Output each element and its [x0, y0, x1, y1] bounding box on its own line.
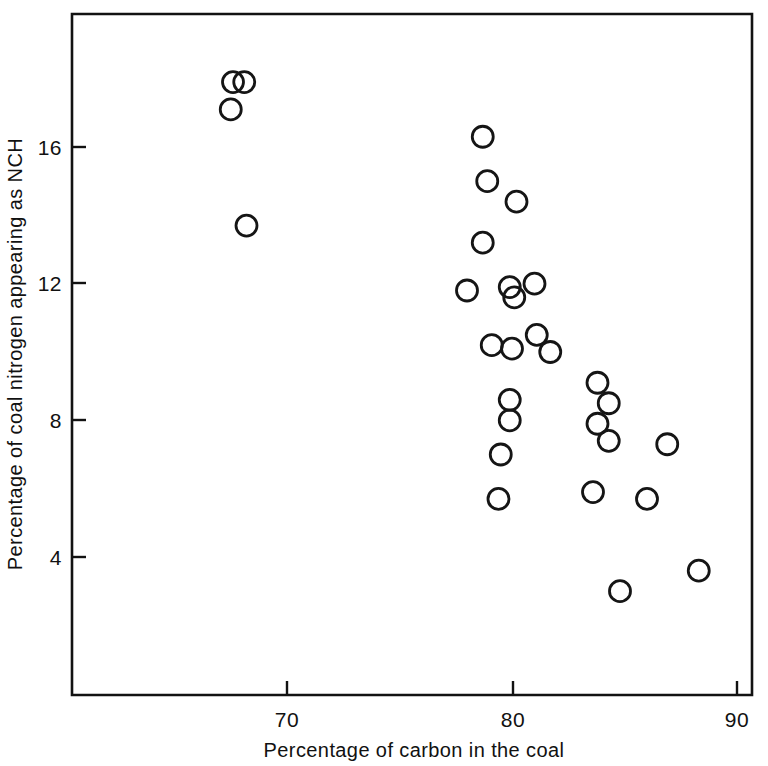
data-point	[477, 171, 498, 192]
data-point	[587, 372, 608, 393]
data-point	[499, 389, 520, 410]
data-point	[481, 335, 502, 356]
x-axis-tick-labels: 70 80 90	[275, 708, 749, 731]
scatter-plot-figure: 70 80 90 16 12 8 4 Percentage of carbon …	[0, 0, 768, 766]
data-point	[506, 191, 527, 212]
plot-canvas: 70 80 90 16 12 8 4 Percentage of carbon …	[0, 0, 768, 766]
data-point	[688, 560, 709, 581]
x-tick-label-80: 80	[501, 708, 525, 731]
data-point	[598, 393, 619, 414]
data-point	[236, 215, 257, 236]
data-point	[610, 581, 631, 602]
data-point	[220, 99, 241, 120]
data-point	[524, 273, 545, 294]
x-tick-label-70: 70	[275, 708, 299, 731]
plot-frame	[72, 14, 752, 695]
data-point	[540, 342, 561, 363]
data-point	[488, 488, 509, 509]
y-axis-tick-labels: 16 12 8 4	[38, 136, 62, 569]
plot-axes-frame	[72, 14, 752, 695]
y-axis-ticks	[72, 147, 86, 557]
data-point	[457, 280, 478, 301]
y-tick-label-16: 16	[38, 136, 62, 159]
x-axis-ticks	[287, 681, 737, 695]
data-point	[583, 482, 604, 503]
y-tick-label-4: 4	[50, 546, 62, 569]
data-point	[637, 488, 658, 509]
data-point	[490, 444, 511, 465]
data-point-group	[220, 72, 709, 602]
data-point	[472, 126, 493, 147]
x-axis-title: Percentage of carbon in the coal	[264, 739, 565, 761]
data-point	[502, 338, 523, 359]
y-tick-label-8: 8	[50, 409, 62, 432]
data-point	[598, 430, 619, 451]
x-tick-label-90: 90	[725, 708, 749, 731]
y-tick-label-12: 12	[38, 272, 62, 295]
y-axis-title: Percentage of coal nitrogen appearing as…	[4, 138, 26, 570]
data-point	[472, 232, 493, 253]
data-point	[657, 434, 678, 455]
data-point	[499, 410, 520, 431]
